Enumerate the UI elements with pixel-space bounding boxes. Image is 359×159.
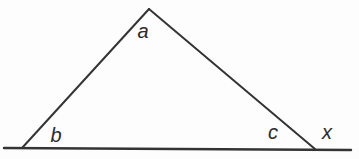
base-extension-line — [4, 148, 351, 150]
angle-label-a: a — [137, 20, 148, 42]
angle-label-c: c — [268, 121, 278, 143]
triangle-right-side — [149, 9, 315, 149]
angle-label-b: b — [50, 124, 61, 146]
angle-label-x: x — [321, 121, 333, 143]
figure-canvas: a b c x — [0, 0, 359, 159]
triangle-left-side — [22, 9, 149, 148]
triangle-diagram: a b c x — [0, 0, 359, 159]
